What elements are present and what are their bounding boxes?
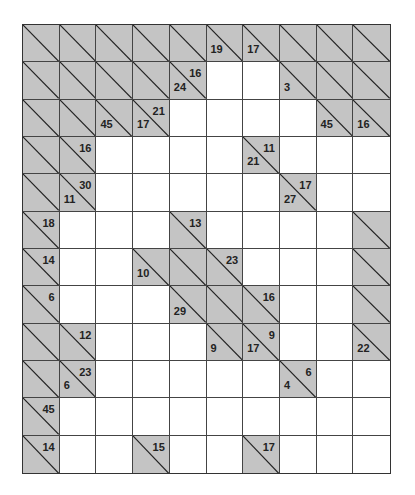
clue-cell: 15 [133, 436, 170, 473]
answer-cell[interactable] [170, 361, 207, 398]
clue-cell: 1727 [280, 174, 317, 211]
answer-cell[interactable] [243, 361, 280, 398]
answer-cell[interactable] [96, 361, 133, 398]
diagonal-divider-icon [23, 62, 59, 98]
clue-cell: 9 [207, 324, 244, 361]
answer-cell[interactable] [170, 174, 207, 211]
clue-cell: 13 [170, 212, 207, 249]
down-clue: 19 [211, 44, 223, 55]
answer-cell[interactable] [96, 249, 133, 286]
clue-cell [23, 25, 60, 62]
answer-cell[interactable] [207, 100, 244, 137]
answer-cell[interactable] [96, 324, 133, 361]
kakuro-board: 1917162434521174516161121301117271813141… [22, 24, 391, 474]
answer-cell[interactable] [207, 62, 244, 99]
answer-cell[interactable] [353, 361, 390, 398]
answer-cell[interactable] [96, 174, 133, 211]
answer-cell[interactable] [243, 212, 280, 249]
answer-cell[interactable] [243, 62, 280, 99]
answer-cell[interactable] [207, 361, 244, 398]
across-clue: 17 [299, 180, 311, 191]
answer-cell[interactable] [317, 212, 354, 249]
answer-cell[interactable] [243, 100, 280, 137]
answer-cell[interactable] [207, 436, 244, 473]
answer-cell[interactable] [317, 286, 354, 323]
answer-cell[interactable] [207, 398, 244, 435]
answer-cell[interactable] [280, 249, 317, 286]
answer-cell[interactable] [133, 361, 170, 398]
down-clue: 9 [211, 343, 217, 354]
answer-cell[interactable] [317, 324, 354, 361]
answer-cell[interactable] [280, 324, 317, 361]
down-clue: 45 [321, 119, 333, 130]
diagonal-divider-icon [96, 25, 132, 61]
down-clue: 10 [137, 268, 149, 279]
answer-cell[interactable] [170, 137, 207, 174]
clue-cell: 10 [133, 249, 170, 286]
answer-cell[interactable] [317, 137, 354, 174]
answer-cell[interactable] [60, 436, 97, 473]
clue-cell [133, 25, 170, 62]
clue-cell [23, 324, 60, 361]
across-clue: 30 [79, 180, 91, 191]
answer-cell[interactable] [96, 436, 133, 473]
clue-cell [353, 249, 390, 286]
answer-cell[interactable] [96, 398, 133, 435]
answer-cell[interactable] [317, 398, 354, 435]
answer-cell[interactable] [170, 398, 207, 435]
answer-cell[interactable] [170, 324, 207, 361]
down-clue: 22 [357, 343, 369, 354]
answer-cell[interactable] [280, 137, 317, 174]
answer-cell[interactable] [280, 286, 317, 323]
across-clue: 11 [263, 143, 275, 154]
clue-cell: 45 [23, 398, 60, 435]
clue-cell: 1121 [243, 137, 280, 174]
answer-cell[interactable] [317, 174, 354, 211]
answer-cell[interactable] [243, 249, 280, 286]
answer-cell[interactable] [133, 398, 170, 435]
answer-cell[interactable] [280, 212, 317, 249]
answer-cell[interactable] [133, 324, 170, 361]
answer-cell[interactable] [317, 436, 354, 473]
answer-cell[interactable] [243, 174, 280, 211]
answer-cell[interactable] [60, 212, 97, 249]
answer-cell[interactable] [207, 212, 244, 249]
answer-cell[interactable] [280, 100, 317, 137]
answer-cell[interactable] [317, 249, 354, 286]
answer-cell[interactable] [353, 137, 390, 174]
answer-cell[interactable] [60, 249, 97, 286]
down-clue: 21 [247, 156, 259, 167]
answer-cell[interactable] [170, 100, 207, 137]
answer-cell[interactable] [96, 137, 133, 174]
diagonal-divider-icon [133, 25, 169, 61]
answer-cell[interactable] [317, 361, 354, 398]
answer-cell[interactable] [243, 398, 280, 435]
clue-cell: 14 [23, 249, 60, 286]
answer-cell[interactable] [353, 436, 390, 473]
answer-cell[interactable] [60, 398, 97, 435]
clue-cell: 45 [317, 100, 354, 137]
clue-cell [133, 62, 170, 99]
answer-cell[interactable] [133, 174, 170, 211]
diagonal-divider-icon [317, 62, 353, 98]
clue-cell: 3 [280, 62, 317, 99]
clue-cell: 16 [243, 286, 280, 323]
answer-cell[interactable] [96, 286, 133, 323]
answer-cell[interactable] [207, 137, 244, 174]
answer-cell[interactable] [170, 436, 207, 473]
answer-cell[interactable] [60, 286, 97, 323]
answer-cell[interactable] [133, 212, 170, 249]
answer-cell[interactable] [133, 286, 170, 323]
answer-cell[interactable] [96, 212, 133, 249]
answer-cell[interactable] [280, 398, 317, 435]
clue-cell: 16 [60, 137, 97, 174]
answer-cell[interactable] [207, 174, 244, 211]
clue-cell: 17 [243, 436, 280, 473]
clue-cell: 29 [170, 286, 207, 323]
answer-cell[interactable] [133, 137, 170, 174]
clue-cell [23, 100, 60, 137]
answer-cell[interactable] [353, 174, 390, 211]
answer-cell[interactable] [280, 436, 317, 473]
clue-cell: 3011 [60, 174, 97, 211]
answer-cell[interactable] [353, 398, 390, 435]
